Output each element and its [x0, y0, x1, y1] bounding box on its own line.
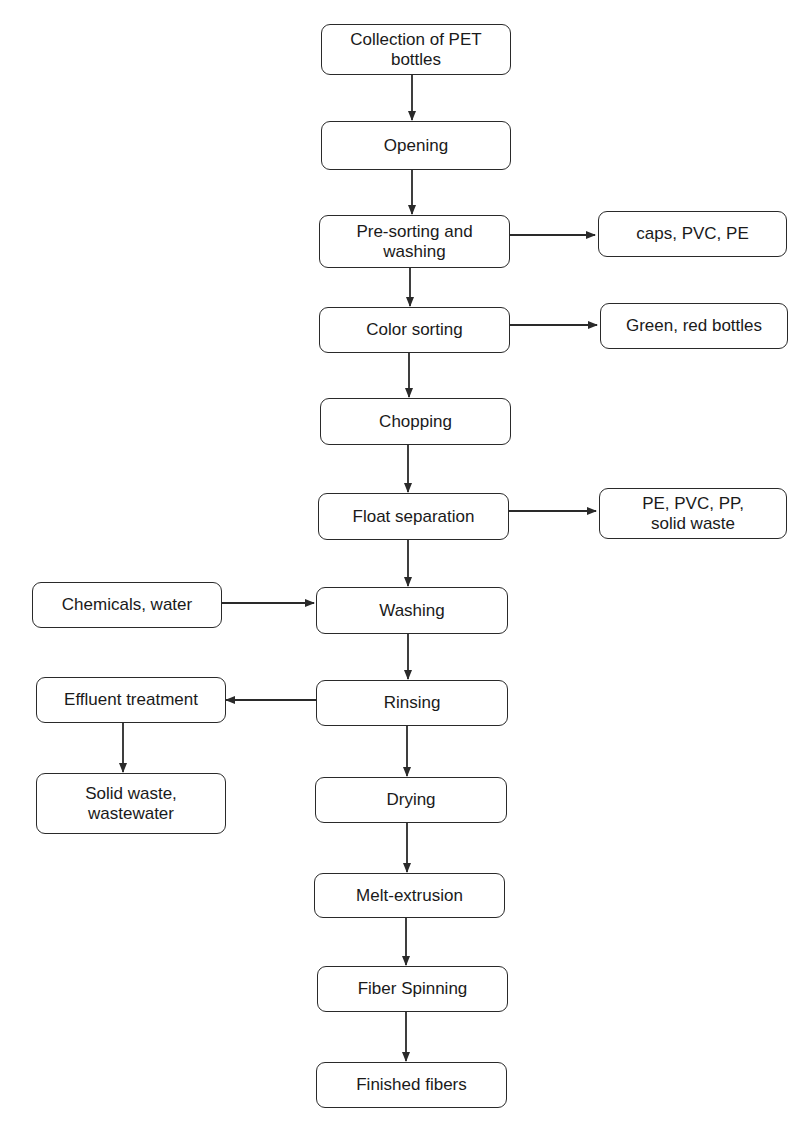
step-chopping: Chopping: [320, 398, 511, 445]
step-washing: Washing: [316, 587, 508, 634]
step-collection: Collection of PET bottles: [321, 24, 511, 75]
effluent-treatment: Effluent treatment: [36, 677, 226, 723]
output-pe-pvc-pp-solid-waste: PE, PVC, PP, solid waste: [599, 488, 787, 539]
step-label: Pre-sorting and washing: [345, 222, 485, 262]
output-solid-waste-wastewater: Solid waste, wastewater: [36, 773, 226, 834]
step-rinsing: Rinsing: [316, 680, 508, 726]
pet-recycling-flowchart: Collection of PET bottles Opening Pre-so…: [0, 0, 811, 1131]
step-label: Collection of PET bottles: [328, 30, 504, 70]
step-label: Float separation: [353, 507, 475, 527]
step-opening: Opening: [321, 121, 511, 170]
step-label: Fiber Spinning: [358, 979, 468, 999]
output-label: Green, red bottles: [626, 316, 762, 336]
input-label: Chemicals, water: [62, 595, 192, 615]
step-color-sorting: Color sorting: [319, 307, 510, 353]
step-label: Rinsing: [384, 693, 441, 713]
step-drying: Drying: [315, 777, 507, 823]
step-label: Melt-extrusion: [356, 886, 463, 906]
output-green-red-bottles: Green, red bottles: [600, 303, 788, 349]
input-chemicals-water: Chemicals, water: [32, 582, 222, 628]
step-fiber-spinning: Fiber Spinning: [317, 966, 508, 1012]
output-caps-pvc-pe: caps, PVC, PE: [598, 211, 787, 257]
output-label: caps, PVC, PE: [636, 224, 748, 244]
step-finished-fibers: Finished fibers: [316, 1062, 507, 1108]
step-float-separation: Float separation: [318, 493, 509, 540]
step-label: Drying: [386, 790, 435, 810]
step-melt-extrusion: Melt-extrusion: [314, 873, 505, 918]
step-presorting: Pre-sorting and washing: [319, 215, 510, 268]
step-label: Chopping: [379, 412, 452, 432]
step-label: Color sorting: [366, 320, 462, 340]
output-label: PE, PVC, PP, solid waste: [628, 494, 758, 534]
step-label: Washing: [379, 601, 445, 621]
effluent-label: Effluent treatment: [64, 690, 198, 710]
step-label: Opening: [384, 136, 448, 156]
output-label: Solid waste, wastewater: [71, 784, 191, 824]
step-label: Finished fibers: [356, 1075, 467, 1095]
